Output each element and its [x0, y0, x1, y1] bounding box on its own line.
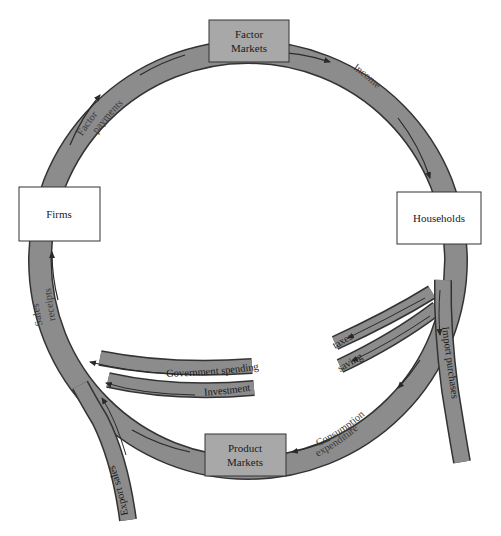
factor-markets-label-line1: Factor [235, 28, 263, 40]
households-node: Households [397, 192, 481, 244]
factor-markets-node: Factor Markets [209, 20, 289, 62]
product-markets-node: Product Markets [205, 434, 286, 476]
households-label: Households [413, 212, 465, 224]
firms-node: Firms [19, 187, 100, 241]
product-markets-label-line2: Markets [227, 456, 263, 468]
product-markets-label-line1: Product [228, 442, 262, 454]
factor-markets-label-line2: Markets [231, 42, 267, 54]
firms-label: Firms [46, 208, 72, 220]
